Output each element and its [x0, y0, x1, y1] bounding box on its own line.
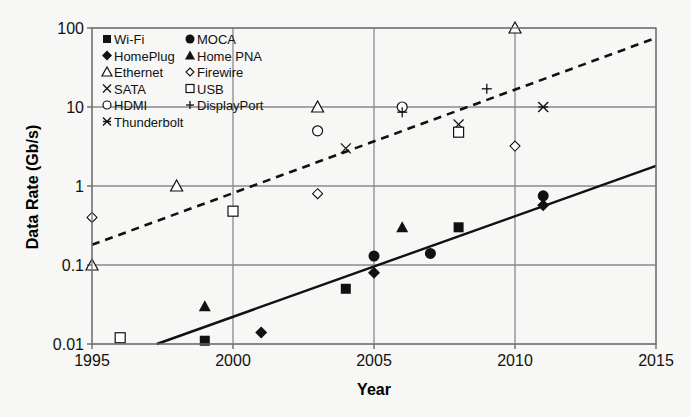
plus-marker — [482, 84, 492, 94]
diamond-marker — [255, 326, 267, 338]
asterisk-marker — [103, 118, 111, 126]
legend-label: Firewire — [197, 65, 243, 80]
x-tick-label: 2005 — [356, 352, 392, 369]
square-marker — [115, 333, 125, 343]
legend-item: HomePlug — [102, 49, 175, 64]
legend-item: HDMI — [103, 98, 147, 113]
legend-label: MOCA — [197, 32, 236, 47]
x-tick-label: 2015 — [638, 352, 674, 369]
series-sata — [341, 120, 464, 154]
diamond-marker — [102, 51, 112, 61]
square-marker — [103, 35, 111, 43]
triangle-marker — [396, 221, 408, 232]
legend-label: USB — [197, 82, 224, 97]
asterisk-marker — [538, 102, 548, 112]
legend-label: HomePlug — [114, 49, 175, 64]
series-displayport — [397, 84, 492, 117]
y-tick-label: 0.01 — [53, 336, 84, 353]
legend-label: HDMI — [114, 98, 147, 113]
x-tick-label: 2010 — [497, 352, 533, 369]
diamond-marker — [537, 199, 549, 211]
x-axis-label: Year — [357, 381, 391, 398]
legend-item: Ethernet — [102, 65, 164, 80]
legend-item: Thunderbolt — [103, 115, 184, 130]
circle-marker — [369, 250, 380, 261]
square-marker — [454, 222, 464, 232]
triangle-marker — [102, 67, 112, 76]
triangle-marker — [185, 51, 195, 60]
legend-item: MOCA — [186, 32, 237, 47]
plus-marker — [186, 101, 194, 109]
x-tick-label: 2000 — [215, 352, 251, 369]
square-marker — [341, 284, 351, 294]
series-thunderbolt — [538, 102, 548, 112]
y-axis-label: Data Rate (Gb/s) — [24, 125, 41, 249]
legend-label: Wi-Fi — [114, 32, 144, 47]
series-firewire — [87, 141, 520, 222]
y-tick-label: 100 — [57, 20, 84, 37]
legend-label: Home PNA — [197, 49, 262, 64]
circle-marker — [425, 248, 436, 259]
x-marker — [103, 85, 111, 93]
y-tick-label: 1 — [75, 178, 84, 195]
circle-marker — [103, 101, 111, 109]
legend-label: DisplayPort — [197, 98, 264, 113]
diamond-marker — [186, 68, 194, 76]
series-usb — [115, 127, 463, 343]
square-marker — [454, 127, 464, 137]
legend-item: USB — [186, 82, 224, 97]
legend-item: Firewire — [186, 65, 243, 80]
circle-marker — [186, 35, 195, 44]
series-wi-fi — [200, 222, 464, 345]
legend-item: Wi-Fi — [103, 32, 144, 47]
solid-trend-line — [157, 166, 656, 344]
legend-label: Thunderbolt — [114, 115, 184, 130]
square-marker — [228, 206, 238, 216]
data-rate-chart: 0.010.111010019952000200520102015 Wi-FiH… — [0, 0, 691, 417]
legend-item: SATA — [103, 82, 146, 97]
legend-item: DisplayPort — [186, 98, 264, 113]
y-tick-label: 0.1 — [62, 257, 84, 274]
diamond-marker — [510, 141, 520, 151]
x-tick-label: 1995 — [74, 352, 110, 369]
legend-label: SATA — [114, 82, 146, 97]
diamond-marker — [313, 189, 323, 199]
legend-label: Ethernet — [114, 65, 164, 80]
square-marker — [186, 85, 194, 93]
y-tick-label: 10 — [66, 99, 84, 116]
legend-item: Home PNA — [185, 49, 262, 64]
triangle-marker — [199, 300, 211, 311]
circle-marker — [313, 126, 323, 136]
legend: Wi-FiHomePlugEthernetSATAHDMIThunderbolt… — [102, 32, 264, 130]
